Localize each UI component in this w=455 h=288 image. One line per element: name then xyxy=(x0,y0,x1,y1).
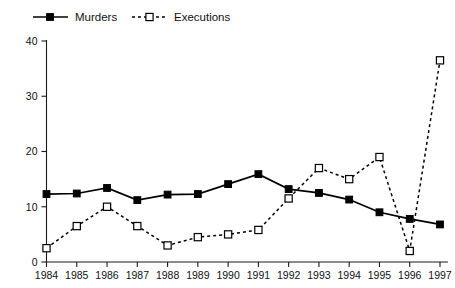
x-tick-label: 1996 xyxy=(398,269,422,281)
data-point-marker xyxy=(406,216,413,223)
legend-marker-murders xyxy=(47,14,54,21)
data-point-marker xyxy=(43,245,50,252)
x-tick-label: 1985 xyxy=(65,269,89,281)
x-tick-label: 1994 xyxy=(338,269,362,281)
data-point-marker xyxy=(164,242,171,249)
data-point-marker xyxy=(164,191,171,198)
data-point-marker xyxy=(43,191,50,198)
data-point-marker xyxy=(73,190,80,197)
data-point-marker xyxy=(376,153,383,160)
data-point-marker xyxy=(194,234,201,241)
data-point-marker xyxy=(346,176,353,183)
data-point-marker xyxy=(104,185,111,192)
data-point-marker xyxy=(285,186,292,193)
data-point-marker xyxy=(316,190,323,197)
data-point-marker xyxy=(134,197,141,204)
data-point-marker xyxy=(285,195,292,202)
data-point-marker xyxy=(225,181,232,188)
y-tick-label: 40 xyxy=(26,35,38,47)
x-tick-label: 1990 xyxy=(216,269,240,281)
x-tick-label: 1989 xyxy=(186,269,210,281)
y-tick-label: 20 xyxy=(26,145,38,157)
legend-marker-executions xyxy=(146,13,153,20)
data-point-marker xyxy=(255,226,262,233)
legend-label-murders: Murders xyxy=(75,11,117,23)
y-tick-label: 10 xyxy=(26,201,38,213)
chart-background xyxy=(0,0,455,288)
x-tick-label: 1986 xyxy=(95,269,119,281)
x-tick-label: 1997 xyxy=(428,269,452,281)
x-tick-label: 1992 xyxy=(277,269,301,281)
data-point-marker xyxy=(103,203,110,210)
data-point-marker xyxy=(255,171,262,178)
chart-container: MurdersExecutions 010203040 198419851986… xyxy=(0,0,455,288)
x-tick-label: 1995 xyxy=(368,269,392,281)
data-point-marker xyxy=(346,196,353,203)
legend-label-executions: Executions xyxy=(174,11,231,23)
x-tick-label: 1987 xyxy=(126,269,150,281)
data-point-marker xyxy=(436,57,443,64)
x-tick-label: 1993 xyxy=(307,269,331,281)
data-point-marker xyxy=(73,222,80,229)
line-chart: MurdersExecutions 010203040 198419851986… xyxy=(0,0,455,288)
data-point-marker xyxy=(315,164,322,171)
data-point-marker xyxy=(194,191,201,198)
y-tick-label: 0 xyxy=(32,256,38,268)
data-point-marker xyxy=(437,221,444,228)
y-tick-label: 30 xyxy=(26,90,38,102)
data-point-marker xyxy=(406,247,413,254)
data-point-marker xyxy=(376,209,383,216)
x-tick-label: 1991 xyxy=(247,269,271,281)
data-point-marker xyxy=(225,231,232,238)
x-tick-label: 1984 xyxy=(35,269,59,281)
x-tick-label: 1988 xyxy=(156,269,180,281)
data-point-marker xyxy=(134,222,141,229)
